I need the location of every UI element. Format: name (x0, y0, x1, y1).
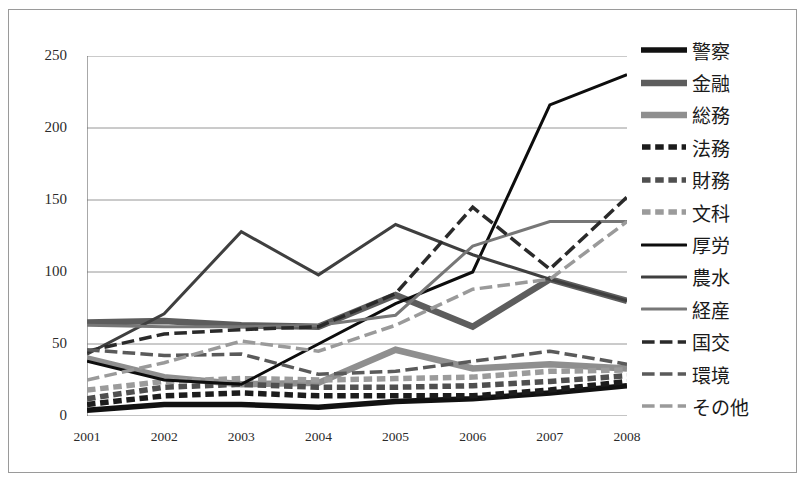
legend-label: 警察 (692, 37, 730, 64)
legend-item-警察[interactable]: 警察 (641, 34, 791, 66)
legend-label: 金融 (692, 69, 730, 96)
legend-item-総務[interactable]: 総務 (641, 99, 791, 131)
legend-swatch-icon-経産 (641, 302, 687, 316)
legend-item-環境[interactable]: 環境 (641, 358, 791, 390)
x-tick-label-2007: 2007 (520, 430, 580, 444)
legend-swatch-icon-国交 (641, 335, 687, 349)
chart-frame: 250200150100500 200120022003200420052006… (8, 9, 797, 473)
legend-item-国交[interactable]: 国交 (641, 326, 791, 358)
legend-label: 法務 (692, 134, 730, 161)
legend-item-農水[interactable]: 農水 (641, 261, 791, 293)
legend-item-金融[interactable]: 金融 (641, 66, 791, 98)
legend-swatch-icon-法務 (641, 140, 687, 154)
x-tick-label-2002: 2002 (134, 430, 194, 444)
x-tick-label-2004: 2004 (288, 430, 348, 444)
legend-swatch-icon-財務 (641, 173, 687, 187)
legend-swatch-icon-総務 (641, 108, 687, 122)
legend-item-文科[interactable]: 文科 (641, 196, 791, 228)
x-tick-label-2001: 2001 (57, 430, 117, 444)
chart-container: 250200150100500 200120022003200420052006… (0, 0, 805, 482)
legend-label: 国交 (692, 328, 730, 355)
x-tick-label-2006: 2006 (443, 430, 503, 444)
legend-label: その他 (692, 393, 749, 420)
legend-label: 環境 (692, 361, 730, 388)
legend-swatch-icon-環境 (641, 367, 687, 381)
legend-item-その他[interactable]: その他 (641, 390, 791, 422)
legend-swatch-icon-金融 (641, 76, 687, 90)
legend-label: 総務 (692, 101, 730, 128)
legend-item-厚労[interactable]: 厚労 (641, 228, 791, 260)
legend-item-法務[interactable]: 法務 (641, 131, 791, 163)
x-tick-label-2005: 2005 (366, 430, 426, 444)
legend-label: 経産 (692, 296, 730, 323)
legend-swatch-icon-文科 (641, 205, 687, 219)
y-tick-label-250: 250 (23, 48, 67, 63)
legend-label: 財務 (692, 166, 730, 193)
legend-label: 文科 (692, 199, 730, 226)
x-tick-label-2008: 2008 (597, 430, 657, 444)
legend-label: 農水 (692, 263, 730, 290)
legend-swatch-icon-農水 (641, 270, 687, 284)
plot-svg (87, 56, 627, 416)
y-tick-label-200: 200 (23, 120, 67, 135)
legend: 警察金融総務法務財務文科厚労農水経産国交環境その他 (641, 34, 791, 423)
y-tick-label-150: 150 (23, 192, 67, 207)
y-tick-label-100: 100 (23, 264, 67, 279)
legend-item-経産[interactable]: 経産 (641, 293, 791, 325)
legend-label: 厚労 (692, 231, 730, 258)
x-tick-label-2003: 2003 (211, 430, 271, 444)
y-tick-label-50: 50 (23, 336, 67, 351)
legend-swatch-icon-警察 (641, 43, 687, 57)
legend-swatch-icon-厚労 (641, 238, 687, 252)
legend-swatch-icon-その他 (641, 399, 687, 413)
legend-item-財務[interactable]: 財務 (641, 164, 791, 196)
plot-area (87, 56, 627, 416)
y-tick-label-0: 0 (23, 408, 67, 423)
